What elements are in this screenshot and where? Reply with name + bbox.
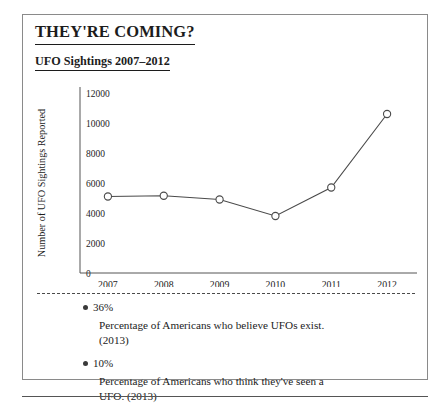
- x-tick-label: 2011: [322, 279, 341, 287]
- note-percentage: 36%: [93, 301, 113, 314]
- note-item: 36%Percentage of Americans who believe U…: [83, 301, 403, 348]
- x-tick-label: 2007: [98, 279, 118, 287]
- y-tick-label: 4000: [86, 209, 105, 219]
- data-point-marker: [104, 193, 111, 200]
- page-title: THEY'RE COMING?: [35, 23, 195, 45]
- x-tick-label: 2009: [210, 279, 230, 287]
- axis-lines: [80, 87, 417, 273]
- note-header: 10%: [83, 357, 403, 370]
- series-path: [108, 114, 387, 216]
- data-line: [108, 114, 387, 216]
- y-tick-label: 2000: [86, 239, 105, 249]
- bullet-icon: [83, 361, 88, 366]
- y-tick-label: 8000: [86, 149, 105, 159]
- y-axis-title-text: Number of UFO Sightings Reported: [36, 109, 47, 257]
- x-tick-label: 2010: [266, 279, 286, 287]
- chart-svg: Number of UFO Sightings Reported 0200040…: [23, 65, 429, 287]
- y-axis-tick-labels: 020004000600080001000012000: [86, 89, 110, 279]
- note-description: Percentage of Americans who think they'v…: [99, 374, 329, 404]
- y-tick-label: 6000: [86, 179, 105, 189]
- x-tick-label: 2008: [154, 279, 174, 287]
- line-chart: Number of UFO Sightings Reported 0200040…: [23, 65, 429, 287]
- y-axis-title: Number of UFO Sightings Reported: [36, 109, 47, 257]
- bottom-rule: [22, 396, 428, 397]
- note-percentage: 10%: [93, 357, 113, 370]
- section-divider: [37, 293, 415, 294]
- note-description: Percentage of Americans who believe UFOs…: [99, 318, 329, 348]
- infographic-panel: THEY'RE COMING? UFO Sightings 2007–2012 …: [22, 14, 428, 380]
- data-point-marker: [328, 184, 335, 191]
- bullet-icon: [83, 305, 88, 310]
- data-point-marker: [383, 110, 390, 117]
- y-tick-label: 12000: [86, 89, 110, 99]
- y-tick-label: 10000: [86, 119, 110, 129]
- note-header: 36%: [83, 301, 403, 314]
- title-block: THEY'RE COMING? UFO Sightings 2007–2012: [35, 23, 335, 71]
- data-point-marker: [272, 212, 279, 219]
- data-point-marker: [160, 192, 167, 199]
- data-point-marker: [216, 196, 223, 203]
- x-tick-label: 2012: [377, 279, 397, 287]
- x-axis-tick-labels: 200720082009201020112012: [98, 279, 397, 287]
